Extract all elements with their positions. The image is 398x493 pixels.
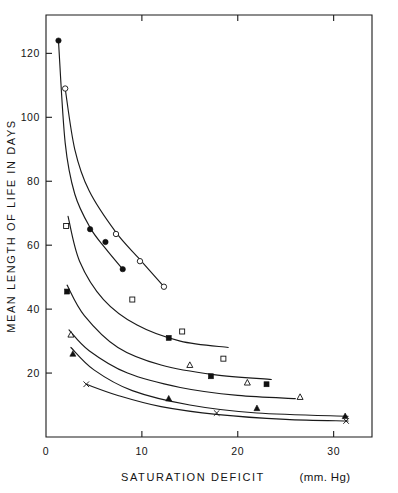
- curve-series-3-open-square: [68, 216, 228, 347]
- marker-filled-triangle-2: [254, 405, 260, 411]
- marker-filled-circle-1: [87, 226, 92, 231]
- marker-open-triangle-2: [244, 379, 250, 385]
- x-axis-unit: (mm. Hg): [299, 471, 350, 483]
- curve-series-5-open-triangle: [69, 330, 295, 399]
- y-tick-label-40: 40: [27, 303, 40, 315]
- marker-open-square-3: [221, 356, 226, 361]
- marker-open-triangle-1: [187, 362, 193, 368]
- marker-open-triangle-3: [297, 394, 303, 400]
- marker-filled-circle-0: [56, 38, 61, 43]
- marker-open-square-2: [180, 329, 185, 334]
- marker-open-circle-1: [113, 231, 118, 236]
- marker-open-square-0: [64, 224, 69, 229]
- x-tick-label-0: 0: [43, 445, 49, 457]
- data-markers: [56, 38, 349, 424]
- y-tick-label-120: 120: [21, 47, 40, 59]
- axis-tick-labels: 204060801001200102030: [21, 47, 340, 457]
- y-tick-label-80: 80: [27, 175, 40, 187]
- marker-open-circle-0: [62, 86, 67, 91]
- marker-filled-square-3: [264, 382, 269, 387]
- marker-cross-0: [83, 381, 89, 387]
- marker-open-circle-2: [137, 258, 142, 263]
- x-tick-label-20: 20: [231, 445, 244, 457]
- curve-series-6-filled-triangle: [71, 347, 348, 416]
- trend-curves: [58, 41, 348, 421]
- marker-filled-square-1: [166, 335, 171, 340]
- figure-container: 204060801001200102030 SATURATION DEFICIT…: [0, 0, 398, 493]
- x-tick-label-30: 30: [327, 445, 340, 457]
- marker-filled-circle-3: [120, 266, 125, 271]
- x-tick-label-10: 10: [135, 445, 148, 457]
- curve-series-2-open-circle: [65, 89, 164, 287]
- marker-filled-circle-2: [103, 239, 108, 244]
- y-tick-label-20: 20: [27, 367, 40, 379]
- marker-filled-triangle-1: [166, 395, 172, 401]
- y-tick-label-60: 60: [27, 239, 40, 251]
- y-axis-title: MEAN LENGTH OF LIFE IN DAYS: [5, 119, 17, 333]
- marker-filled-square-2: [208, 374, 213, 379]
- curve-series-4-filled-square: [67, 285, 271, 379]
- y-tick-label-100: 100: [21, 111, 40, 123]
- marker-open-square-1: [130, 297, 135, 302]
- marker-open-circle-3: [161, 284, 166, 289]
- x-axis-title: SATURATION DEFICIT: [121, 471, 265, 483]
- marker-filled-square-0: [65, 289, 70, 294]
- chart-canvas: 204060801001200102030 SATURATION DEFICIT…: [0, 0, 398, 493]
